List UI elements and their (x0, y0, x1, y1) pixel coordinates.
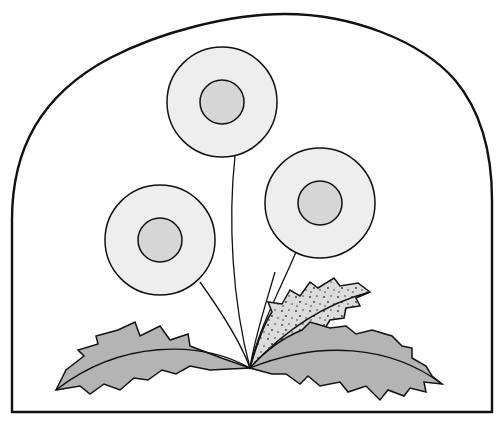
left-flower (105, 185, 215, 295)
right-flower (265, 148, 375, 258)
dandelion-drawing (0, 0, 502, 426)
illustration-canvas: Dandelion plant line drawing (0, 0, 502, 426)
top-flower (167, 47, 277, 157)
